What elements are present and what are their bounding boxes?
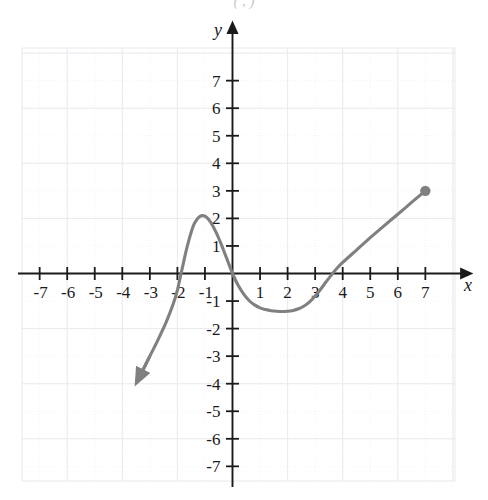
- graph-figure: ( , ) x y -7-6-5-4-3-2-11234567 7654321-…: [0, 0, 488, 500]
- y-tick-label: -7: [206, 457, 221, 476]
- x-tick-label: 4: [338, 283, 347, 302]
- x-tick-label: -4: [116, 283, 131, 302]
- y-tick-label: -1: [206, 292, 220, 311]
- closed-endpoint-dot: [420, 186, 430, 196]
- y-tick-label: 5: [212, 127, 221, 146]
- x-tick-label: -3: [144, 283, 158, 302]
- y-tick-label: -6: [206, 430, 220, 449]
- y-tick-label: 6: [212, 99, 221, 118]
- y-tick-label: -4: [206, 375, 221, 394]
- x-tick-label: 5: [366, 283, 375, 302]
- x-tick-label: 7: [421, 283, 430, 302]
- y-axis-label: y: [212, 20, 222, 40]
- y-tick-label: 7: [212, 72, 221, 91]
- y-tick-label: -3: [206, 347, 220, 366]
- coordinate-plane: x y -7-6-5-4-3-2-11234567 7654321-1-2-3-…: [0, 0, 488, 500]
- x-tick-label: -7: [34, 283, 49, 302]
- x-axis-label: x: [463, 275, 472, 295]
- y-tick-label: 3: [212, 182, 221, 201]
- x-tick-label: 1: [256, 283, 265, 302]
- x-tick-label: -5: [89, 283, 103, 302]
- x-tick-label: 2: [283, 283, 292, 302]
- y-tick-label: -5: [206, 402, 220, 421]
- x-tick-label: -6: [61, 283, 75, 302]
- x-tick-label: 6: [394, 283, 403, 302]
- minor-gridlines: [22, 48, 455, 481]
- major-gridlines: [22, 48, 455, 481]
- curve-arrow-tail: [142, 356, 150, 373]
- y-tick-label: -2: [206, 320, 220, 339]
- y-tick-label: 4: [212, 154, 221, 173]
